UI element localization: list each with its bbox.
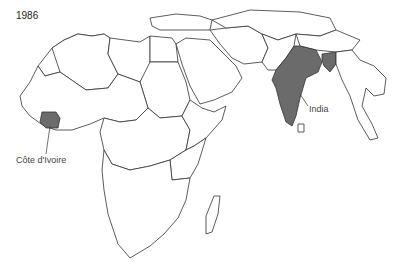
leader-lines: [0, 0, 403, 280]
map-figure: 1986 India Côte d'Ivoire: [0, 0, 403, 280]
india-label: India: [309, 104, 329, 114]
cote-divoire-label: Côte d'Ivoire: [16, 155, 66, 165]
